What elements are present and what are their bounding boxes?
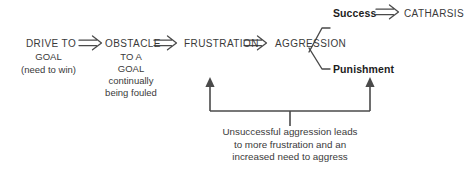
feedback-caption-line-3: increased need to aggress (190, 151, 390, 164)
branch-connector-punishment (309, 48, 330, 69)
feedback-caption: Unsuccessful aggression leads to more fr… (190, 126, 390, 164)
node-drive-goal: GOAL (11, 51, 86, 63)
arrow-success-to-catharsis (376, 5, 399, 19)
node-punishment: Punishment (333, 63, 394, 75)
feedback-arrowhead-left (205, 77, 214, 87)
node-success: Success (333, 7, 376, 19)
node-aggression: AGGRESSION (275, 38, 346, 49)
feedback-caption-line-1: Unsuccessful aggression leads (190, 126, 390, 139)
node-catharsis: CATHARSIS (404, 8, 464, 19)
feedback-caption-line-2: to more frustration and an (190, 139, 390, 152)
node-frustration: FRUSTRATION (184, 38, 259, 49)
node-obstacle: OBSTACLE (105, 38, 161, 49)
node-drive-to: DRIVE TO (26, 38, 76, 49)
node-obstacle-continually: continually (100, 75, 162, 87)
frustration-aggression-diagram: DRIVE TO GOAL (need to win) OBSTACLE TO … (0, 0, 466, 176)
node-obstacle-to-a: TO A (100, 51, 162, 63)
node-obstacle-goal: GOAL (100, 63, 162, 75)
arrow-drive-to-obstacle (79, 36, 102, 50)
node-drive-need-to-win: (need to win) (11, 64, 86, 76)
feedback-arrowhead-right (365, 77, 374, 87)
node-obstacle-being-fouled: being fouled (100, 87, 162, 99)
